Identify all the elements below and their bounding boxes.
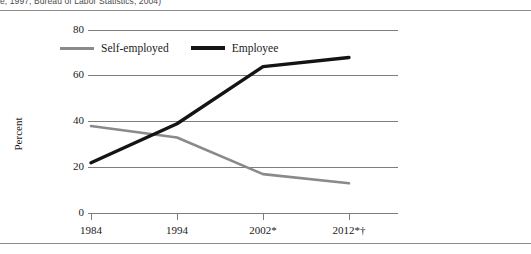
y-tick-label-0: 0 <box>58 206 84 218</box>
gridline-40 <box>88 121 398 122</box>
y-tick-label-20: 20 <box>58 160 84 172</box>
x-tick-label-2012: 2012*† <box>319 224 379 236</box>
figure-container: e, 1997; Bureau of Labor Statistics, 200… <box>0 0 531 254</box>
x-tick-label-2002: 2002* <box>233 224 293 236</box>
y-tick-label-80: 80 <box>58 23 84 35</box>
y-tick-label-60: 60 <box>58 68 84 80</box>
legend: Self-employed Employee <box>60 42 278 54</box>
plot-area: 80 60 40 20 0 Percent 1984 1994 2002* 20… <box>0 0 531 254</box>
x-tick-1994 <box>177 214 178 220</box>
legend-label-employee: Employee <box>232 42 279 54</box>
series-line-self-employed <box>91 126 349 183</box>
legend-label-self-employed: Self-employed <box>101 42 169 54</box>
gridline-60 <box>88 75 398 76</box>
legend-swatch-employee <box>191 46 225 50</box>
y-axis-title: Percent <box>12 104 24 164</box>
legend-item-self-employed: Self-employed <box>60 42 169 54</box>
x-tick-1984 <box>91 214 92 220</box>
x-tick-2002 <box>263 214 264 220</box>
x-tick-2012 <box>349 214 350 220</box>
y-tick-label-40: 40 <box>58 114 84 126</box>
x-tick-label-1984: 1984 <box>61 224 121 236</box>
bottom-rule <box>0 243 531 244</box>
legend-item-employee: Employee <box>191 42 279 54</box>
x-axis-line <box>88 213 398 214</box>
x-tick-label-1994: 1994 <box>147 224 207 236</box>
gridline-80 <box>88 30 398 31</box>
series-line-employee <box>91 57 349 162</box>
legend-swatch-self-employed <box>60 47 94 50</box>
gridline-20 <box>88 167 398 168</box>
